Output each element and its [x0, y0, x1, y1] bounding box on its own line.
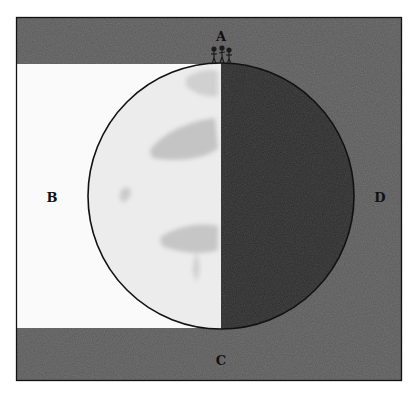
label-d: D	[372, 191, 388, 204]
label-b: B	[44, 191, 60, 204]
label-c: C	[213, 354, 229, 367]
globe-illustration	[0, 0, 417, 397]
label-a: A	[213, 30, 229, 43]
